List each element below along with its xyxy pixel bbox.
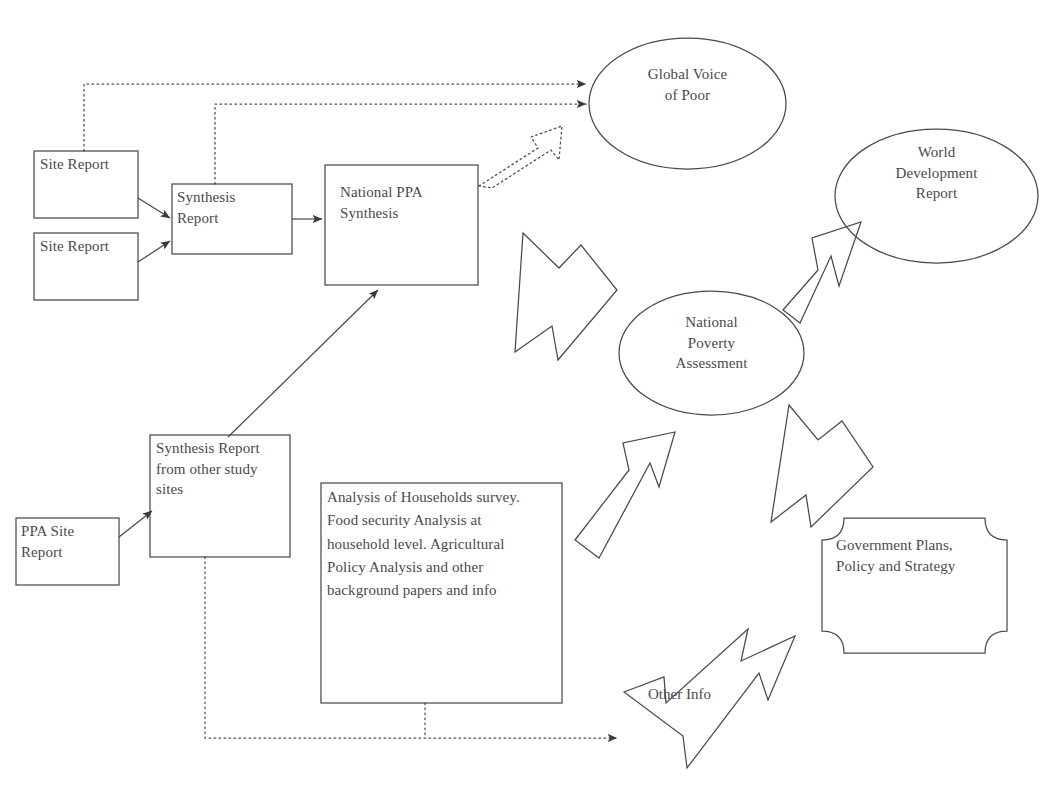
edge-poverty-assessment-to-wdr <box>783 222 861 323</box>
node-synthesis-report[interactable] <box>172 184 292 254</box>
edge-synthesis-report-to-global-voice <box>215 104 586 184</box>
edge-site-report-1-to-global-voice <box>84 84 586 151</box>
edge-national-ppa-to-global-voice <box>479 126 562 188</box>
edge-poverty-assessment-to-government-plans <box>771 405 873 527</box>
edge-site-report-2-to-synthesis <box>138 241 170 262</box>
edge-site-report-1-to-synthesis <box>138 198 170 218</box>
diagram-graphics <box>0 0 1056 785</box>
node-government-plans[interactable] <box>822 518 1007 653</box>
node-analysis-box[interactable] <box>321 483 562 703</box>
edge-label-other-info: Other Info <box>648 686 711 703</box>
node-national-poverty-assessment[interactable] <box>619 291 804 415</box>
node-synthesis-report-other-sites[interactable] <box>150 435 290 557</box>
node-global-voice-of-poor[interactable] <box>589 38 786 169</box>
node-site-report-1[interactable] <box>34 151 138 218</box>
node-world-development-report[interactable] <box>835 129 1038 263</box>
edge-ppa-site-report-to-synthesis-other <box>119 511 152 537</box>
edge-analysis-to-poverty-assessment <box>575 432 675 558</box>
node-ppa-site-report[interactable] <box>16 518 119 585</box>
diagram-canvas: Site Report Site Report Synthesis Report… <box>0 0 1056 785</box>
node-national-ppa-synthesis[interactable] <box>325 165 478 285</box>
edge-synthesis-other-dotted-down <box>205 557 617 738</box>
node-site-report-2[interactable] <box>34 233 138 300</box>
edge-synthesis-other-to-national-ppa <box>228 290 378 437</box>
edge-national-ppa-to-poverty-assessment <box>515 233 617 360</box>
